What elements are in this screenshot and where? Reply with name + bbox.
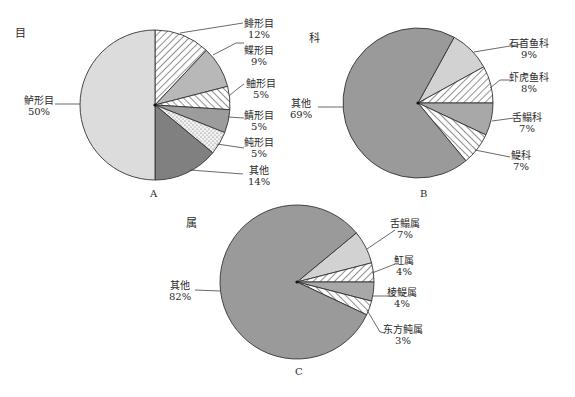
label-c-0: 舌鳎属7% [390,218,420,240]
label-a-1: 鲽形目9% [244,45,274,67]
label-b-2: 舌鳎科7% [512,112,542,134]
label-c-3: 东方鲀属3% [383,324,423,346]
label-a-5: 其他14% [248,165,270,187]
label-a-0: 鲱形目12% [244,18,274,40]
pie-chart-family [343,28,493,178]
panel-a-title: 目 [15,24,26,40]
pie-chart-genus [220,205,374,359]
panel-a-caption: A [150,188,157,199]
label-a-2: 鲉形目5% [246,78,276,100]
label-b-4: 其他69% [290,98,312,120]
label-a-4: 鲀形目5% [244,137,274,159]
label-b-1: 虾虎鱼科8% [509,72,549,94]
panel-c-title: 属 [186,214,197,230]
label-a-3: 鲭形目5% [244,110,274,132]
label-b-3: 鳀科7% [511,150,531,172]
panel-c-caption: C [295,366,303,377]
label-b-0: 石首鱼科9% [509,38,549,60]
panel-b-caption: B [420,188,427,199]
pie-chart-order [80,30,230,180]
panel-b-title: 科 [309,29,320,45]
label-c-1: 魟属4% [394,255,414,277]
label-c-4: 其他82% [169,280,191,302]
label-c-2: 棱鳀属4% [387,287,417,309]
label-a-6: 鲈形目50% [24,95,54,117]
pie-charts-canvas [0,0,575,397]
pie-slice [80,30,155,180]
